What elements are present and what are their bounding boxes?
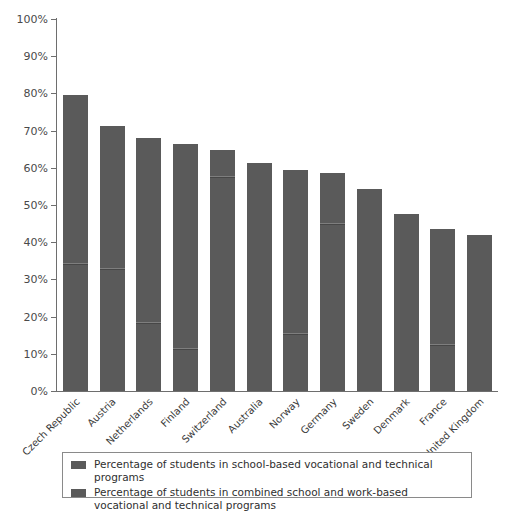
x-label-czech-republic: Czech Republic [20,396,82,458]
bar-switzerland [210,150,235,391]
y-tick-mark [51,205,56,206]
legend-item-label: Percentage of students in combined schoo… [94,486,463,512]
x-label-germany: Germany [298,396,338,436]
y-tick-label: 80% [24,88,48,99]
bar-segment-divider [210,177,235,178]
y-tick-mark [51,391,56,392]
legend-swatch-icon [71,461,86,469]
y-tick-mark [51,56,56,57]
legend-swatch-icon [71,489,86,497]
bar-segment-divider [100,269,125,270]
x-label-australia: Australia [226,396,265,435]
bar-segment-divider [63,264,88,265]
y-tick-label: 30% [24,274,48,285]
y-tick-label: 100% [17,14,48,25]
bar-segment-divider [430,345,455,346]
bar-norway [283,170,308,391]
chart-legend: Percentage of students in school-based v… [62,452,472,498]
bar-segment-divider [283,334,308,335]
y-tick-label: 0% [31,386,48,397]
y-tick-mark [51,168,56,169]
y-tick-label: 10% [24,349,48,360]
plot-area [57,19,498,391]
bar-czech-republic [63,95,88,391]
y-tick-mark [51,242,56,243]
y-tick-label: 70% [24,126,48,137]
y-tick-mark [51,131,56,132]
y-tick-mark [51,317,56,318]
bar-finland [173,144,198,391]
x-label-sweden: Sweden [340,396,376,432]
y-tick-mark [51,354,56,355]
y-tick-label: 40% [24,237,48,248]
bar-australia [247,163,272,391]
bar-united-kingdom [467,235,492,391]
bar-austria [100,126,125,391]
bar-denmark [394,214,419,391]
y-tick-label: 90% [24,51,48,62]
y-tick-mark [51,279,56,280]
x-label-france: France [417,396,448,427]
bar-segment-divider [320,224,345,225]
legend-item-label: Percentage of students in school-based v… [94,458,463,484]
x-label-finland: Finland [158,396,191,429]
bar-segment-divider [173,349,198,350]
bar-segment-divider [136,323,161,324]
y-tick-mark [51,93,56,94]
bar-germany [320,173,345,391]
legend-item: Percentage of students in combined schoo… [71,486,463,512]
y-tick-label: 60% [24,163,48,174]
bar-netherlands [136,138,161,391]
x-label-norway: Norway [267,396,302,431]
legend-item: Percentage of students in school-based v… [71,458,463,484]
x-label-austria: Austria [85,396,118,429]
bar-sweden [357,189,382,391]
y-tick-mark [51,19,56,20]
bar-france [430,229,455,391]
y-tick-label: 20% [24,312,48,323]
bar-chart: 0%10%20%30%40%50%60%70%80%90%100% Czech … [0,0,510,514]
x-label-denmark: Denmark [372,396,412,436]
x-axis-line [56,391,498,392]
y-tick-label: 50% [24,200,48,211]
